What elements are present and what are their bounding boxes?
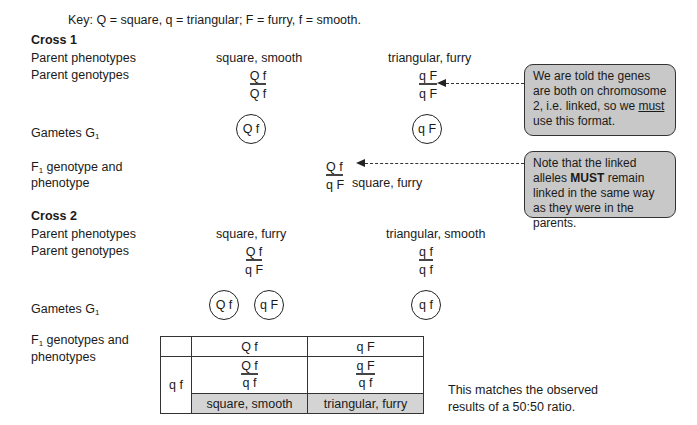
chromosome-bottom: q F xyxy=(245,263,263,277)
callout-text: use this format. xyxy=(533,114,615,128)
cross1-heading: Cross 1 xyxy=(31,33,77,47)
chromosome-top: Q f xyxy=(241,359,258,375)
table-col-header: q F xyxy=(308,337,424,357)
table-header-row: Q f q F xyxy=(161,337,424,357)
cross2-parent-genotypes-label: Parent genotypes xyxy=(31,244,129,258)
cross1-parent2-phenotype: triangular, furry xyxy=(388,51,471,65)
table-row: square, smooth triangular, furry xyxy=(161,394,424,414)
cross1-f1-label-line2: phenotype xyxy=(31,176,89,190)
callout-linked-format: We are told the genes are both on chromo… xyxy=(524,64,676,136)
gamete-circle: Q f xyxy=(209,290,239,320)
gamete-circle: q F xyxy=(412,114,442,144)
table-col-header: Q f xyxy=(192,337,308,357)
chromosome-bottom: Q f xyxy=(250,87,267,101)
cross1-parent1-phenotype: square, smooth xyxy=(216,51,302,65)
chromosome-top: q F xyxy=(356,359,374,375)
cross1-parent-genotypes-label: Parent genotypes xyxy=(31,68,129,82)
gamete-circle: q f xyxy=(411,290,441,320)
cross2-heading: Cross 2 xyxy=(31,209,77,223)
cross1-f1-genotype: Q f q F xyxy=(326,158,344,194)
key-text: Key: Q = square, q = triangular; F = fur… xyxy=(68,13,361,27)
cross1-parent-phenotypes-label: Parent phenotypes xyxy=(31,51,136,65)
cross2-parent2-phenotype: triangular, smooth xyxy=(386,227,485,241)
callout-emphasis: must xyxy=(638,99,664,113)
conclusion-line2: results of a 50:50 ratio. xyxy=(448,400,575,414)
chromosome-bottom: q f xyxy=(243,376,257,390)
chromosome-top: q F xyxy=(419,69,437,85)
arrow-line xyxy=(365,163,524,164)
cross1-parent1-genotype: Q f Q f xyxy=(228,67,288,103)
cross1-f1-phenotype: square, furry xyxy=(352,176,422,190)
cross2-parent1-genotype: Q f q F xyxy=(224,243,284,279)
table-corner-cell xyxy=(161,337,192,357)
chromosome-top: q f xyxy=(419,245,433,261)
chromosome-top: Q f xyxy=(326,160,343,176)
table-cell-genotype: q F q f xyxy=(308,357,424,394)
callout-emphasis: MUST xyxy=(570,171,604,185)
table-cell-phenotype: triangular, furry xyxy=(308,394,424,414)
callout-linked-same-way: Note that the linked alleles MUST remain… xyxy=(524,151,676,218)
chromosome-top: Q f xyxy=(246,245,263,261)
cross2-f1-label-line2: phenotypes xyxy=(31,350,96,364)
arrow-head-icon xyxy=(356,159,365,167)
cross1-gametes-label: Gametes G1 xyxy=(31,126,99,141)
gamete-circle: q F xyxy=(254,290,284,320)
cross2-f1-label-line1: F1 genotypes and xyxy=(31,333,129,348)
cross2-parent-phenotypes-label: Parent phenotypes xyxy=(31,227,136,241)
cross2-parent2-genotype: q f q f xyxy=(396,243,456,279)
cross1-f1-label-line1: F1 genotype and xyxy=(31,160,122,175)
table-cell-genotype: Q f q f xyxy=(192,357,308,394)
table-cell-phenotype: square, smooth xyxy=(192,394,308,414)
cross2-parent1-phenotype: square, furry xyxy=(216,227,286,241)
cross1-parent2-genotype: q F q F xyxy=(398,67,458,103)
conclusion-line1: This matches the observed xyxy=(448,383,598,397)
chromosome-bottom: q f xyxy=(359,376,373,390)
chromosome-top: Q f xyxy=(250,69,267,85)
chromosome-bottom: q F xyxy=(326,178,344,192)
cross2-gametes-label: Gametes G1 xyxy=(31,302,99,317)
punnett-square: Q f q F q f Q f q f q F q f square, smoo… xyxy=(160,336,424,414)
chromosome-bottom: q F xyxy=(419,87,437,101)
arrow-head-icon xyxy=(437,79,446,87)
gamete-circle: Q f xyxy=(236,114,266,144)
table-row-header: q f xyxy=(161,357,192,414)
arrow-line xyxy=(446,83,524,84)
chromosome-bottom: q f xyxy=(419,263,433,277)
table-row: q f Q f q f q F q f xyxy=(161,357,424,394)
